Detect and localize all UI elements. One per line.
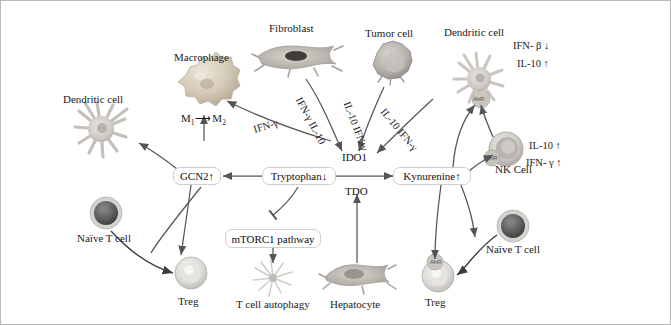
cytokine-nk-il10: IL-10 ↑	[529, 141, 561, 152]
label-naive-t-cell-left: Naïve T cell	[77, 233, 131, 244]
label-macrophage-polarization: M1 ⟶ M2	[181, 113, 226, 127]
label-macrophage: Macrophage	[174, 52, 229, 63]
node-mtorc1-pathway[interactable]: mTORC1 pathway	[225, 229, 321, 248]
node-kynurenine[interactable]: Kynurenine↑	[393, 167, 471, 185]
ahr-label-nk: AhR	[486, 155, 497, 161]
node-tryptophan[interactable]: Tryptophan↓	[262, 167, 336, 185]
node-ido1: IDO1	[342, 151, 367, 163]
label-hepatocyte: Hepatocyte	[330, 299, 380, 310]
label-t-cell-autophagy: T cell autophagy	[236, 299, 310, 310]
label-tumor-cell: Tumor cell	[365, 28, 413, 39]
figure-canvas: GCN2↑ Tryptophan↓ Kynurenine↑ mTORC1 pat…	[0, 0, 671, 325]
arrow-layer	[1, 1, 671, 325]
label-dendritic-cell-right: Dendritic cell	[444, 27, 504, 38]
label-dendritic-cell-left: Dendritic cell	[63, 94, 123, 105]
label-fibroblast: Fibroblast	[269, 23, 314, 34]
ahr-label-dendritic-right: AhR	[473, 96, 484, 102]
label-naive-t-cell-right: Naïve T cell	[486, 244, 540, 255]
cytokine-dendritic-il10: IL-10 ↑	[517, 59, 549, 70]
cytokine-dendritic-ifn-beta: IFN- β ↓	[513, 41, 549, 52]
ahr-label-treg-right: AhR	[430, 259, 441, 265]
label-treg-left: Treg	[178, 296, 198, 307]
node-tdo: TDO	[345, 185, 368, 197]
label-treg-right: Treg	[425, 297, 445, 308]
cytokine-nk-ifn-gamma: IFN- γ ↑	[526, 158, 562, 169]
node-gcn2[interactable]: GCN2↑	[173, 167, 221, 185]
